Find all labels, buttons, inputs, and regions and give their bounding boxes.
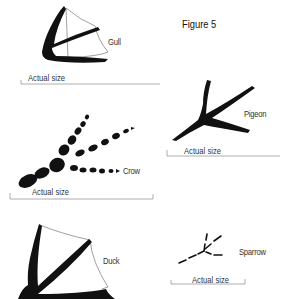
sparrow-scale-line (0, 0, 295, 299)
